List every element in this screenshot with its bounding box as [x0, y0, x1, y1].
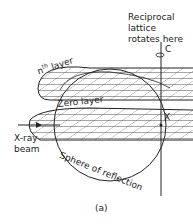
point-x-dot — [160, 124, 163, 127]
xray-beam-label-line2: beam — [14, 144, 40, 154]
reciprocal-label-line1: Reciprocal — [128, 12, 175, 22]
xray-beam-label-line1: X-ray — [14, 133, 38, 143]
rotation-arrow-icon — [156, 53, 164, 57]
reciprocal-label-line3: rotates here — [128, 34, 183, 44]
axis-point-c-label: C — [165, 44, 171, 54]
point-x-label: X — [164, 112, 170, 122]
reciprocal-label-line2: lattice — [128, 23, 156, 33]
figure-caption: (a) — [95, 203, 108, 213]
